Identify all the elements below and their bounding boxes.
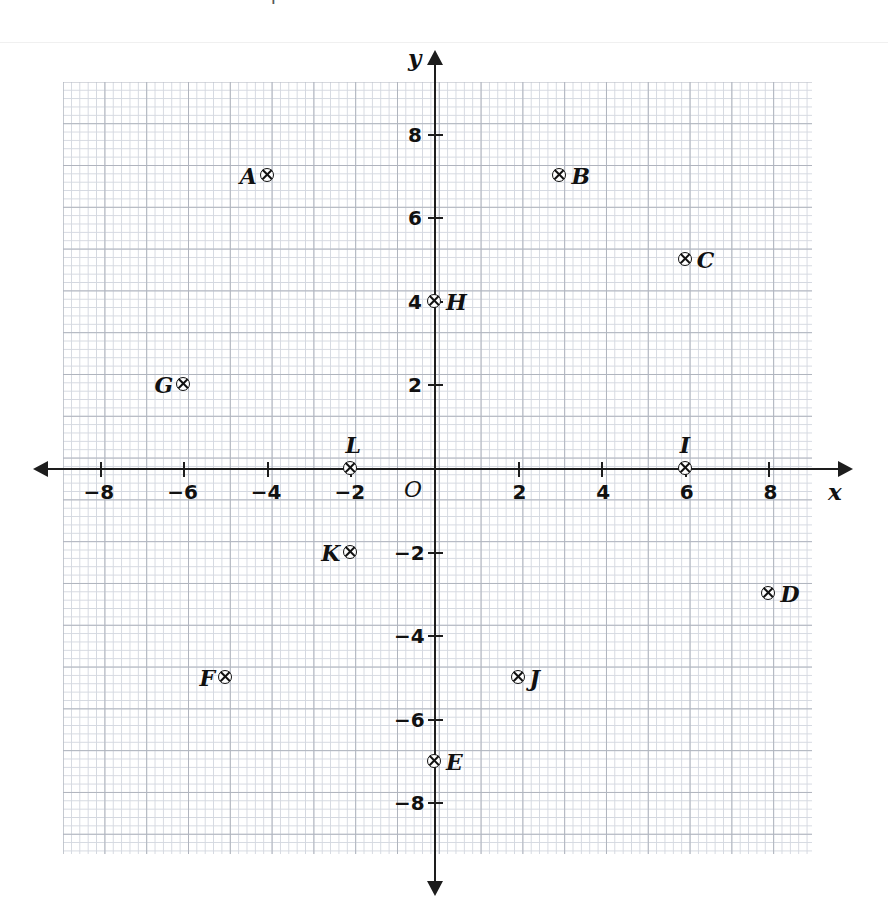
y-tick-label: −8	[394, 793, 425, 813]
point-label-d: D	[780, 583, 799, 605]
point-label-c: C	[697, 249, 715, 271]
y-tick-label: −4	[394, 626, 425, 646]
point-label-e: E	[446, 751, 463, 773]
point-label-b: B	[571, 165, 590, 187]
y-axis-down-arrow-icon	[427, 881, 443, 896]
x-tick-label: 8	[763, 482, 777, 502]
point-label-j: J	[530, 667, 540, 689]
point-marker-icon	[218, 670, 232, 684]
x-tick-label: −8	[84, 482, 115, 502]
x-axis-label: x	[828, 480, 842, 503]
point-marker-icon	[678, 461, 692, 475]
y-tick-label: 6	[408, 208, 422, 228]
point-marker-icon	[176, 377, 190, 391]
y-tick-label: 8	[408, 125, 422, 145]
y-tick-mark	[428, 384, 443, 386]
x-axis-right-arrow-icon	[838, 461, 853, 477]
point-marker-icon	[552, 168, 566, 182]
x-tick-mark	[518, 462, 520, 477]
point-label-i: I	[680, 434, 690, 456]
y-axis-label: y	[408, 46, 421, 69]
coordinate-plane: x y O −8−6−4−22468 8642−2−4−6−8 ABCDEFGH…	[0, 0, 888, 917]
point-marker-icon	[260, 168, 274, 182]
point-marker-icon	[343, 461, 357, 475]
y-tick-mark	[428, 217, 443, 219]
point-marker-icon	[343, 545, 357, 559]
x-tick-mark	[183, 462, 185, 477]
x-tick-label: 4	[596, 482, 610, 502]
x-axis-left-arrow-icon	[33, 461, 48, 477]
origin-label: O	[404, 479, 422, 501]
point-label-g: G	[154, 374, 173, 396]
x-tick-mark	[100, 462, 102, 477]
point-marker-icon	[678, 252, 692, 266]
x-tick-label: −6	[167, 482, 198, 502]
y-axis-up-arrow-icon	[427, 50, 443, 65]
y-tick-label: 4	[408, 292, 422, 312]
x-tick-mark	[768, 462, 770, 477]
x-tick-label: −2	[334, 482, 365, 502]
point-marker-icon	[427, 294, 441, 308]
point-label-h: H	[446, 291, 467, 313]
y-tick-mark	[428, 719, 443, 721]
figure-page: P x y O −8−6−4−22468 8642−2−4−6−8 ABCDEF…	[0, 0, 888, 917]
y-tick-mark	[428, 635, 443, 637]
y-tick-label: −6	[394, 710, 425, 730]
point-label-f: F	[199, 667, 215, 689]
point-label-a: A	[240, 165, 257, 187]
point-label-k: K	[321, 542, 340, 564]
x-tick-label: −4	[251, 482, 282, 502]
point-marker-icon	[761, 586, 775, 600]
y-tick-mark	[428, 552, 443, 554]
point-label-l: L	[345, 434, 360, 456]
x-tick-label: 6	[680, 482, 694, 502]
y-tick-mark	[428, 134, 443, 136]
x-tick-mark	[601, 462, 603, 477]
x-axis-line	[41, 468, 841, 470]
y-tick-mark	[428, 802, 443, 804]
point-marker-icon	[427, 754, 441, 768]
x-tick-mark	[267, 462, 269, 477]
y-tick-label: −2	[394, 543, 425, 563]
x-tick-label: 2	[513, 482, 527, 502]
y-tick-label: 2	[408, 375, 422, 395]
point-marker-icon	[511, 670, 525, 684]
